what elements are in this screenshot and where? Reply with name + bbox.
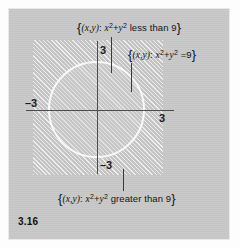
leader-line-right [131, 63, 132, 92]
tick-label-y-positive: 3 [100, 45, 106, 56]
set-label-boundary-colon: : [150, 49, 153, 60]
set-label-boundary-tuple: (x,y) [132, 50, 150, 60]
set-label-boundary-relation: =9 [181, 49, 192, 60]
set-label-interior-y-exponent: 2 [123, 22, 127, 29]
figure-number: 3.16 [18, 216, 38, 227]
set-label-exterior-colon: : [80, 193, 83, 204]
set-label-boundary-close-brace: } [192, 47, 196, 62]
set-label-exterior-relation: greater than 9 [111, 193, 172, 204]
y-axis [97, 41, 98, 174]
set-label-interior-tuple: (x,y) [81, 23, 99, 33]
tick-label-x-negative: –3 [25, 98, 37, 109]
set-label-interior-relation: less than 9 [130, 22, 177, 33]
set-label-exterior-y-exponent: 2 [104, 193, 108, 200]
set-label-exterior-tuple: (x,y) [62, 194, 80, 204]
x-axis [26, 110, 174, 111]
set-label-exterior-close-brace: } [171, 191, 175, 206]
set-label-exterior: {(x,y): x2+y2 greater than 9} [58, 192, 176, 207]
set-label-interior-close-brace: } [177, 20, 181, 35]
set-label-boundary: {(x,y): x2+y2 =9} [128, 48, 196, 63]
set-label-interior-colon: : [99, 22, 102, 33]
leader-line-bottom [123, 169, 124, 191]
tick-label-y-negative: –3 [100, 160, 112, 171]
set-label-interior: {(x,y): x2+y2 less than 9} [77, 21, 181, 36]
figure-container: 3 –3 –3 3 {(x,y): x2+y2 less than 9} {(x… [0, 0, 240, 248]
leader-line-top [111, 37, 112, 73]
tick-label-x-positive: 3 [159, 113, 165, 124]
set-label-boundary-y-exponent: 2 [174, 49, 178, 56]
